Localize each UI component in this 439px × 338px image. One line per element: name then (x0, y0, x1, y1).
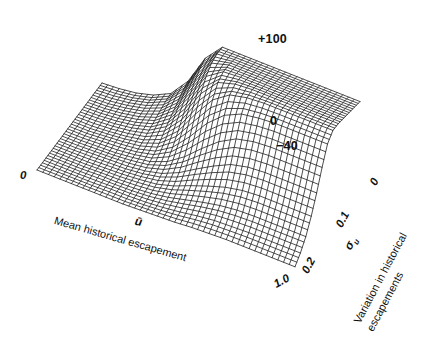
z-tick-top: +100 (258, 33, 287, 46)
surface-plot-figure: +100 0 −40 0 1.0 Mean historical escapem… (0, 0, 439, 338)
z-tick-bottom: −40 (276, 140, 298, 153)
x-tick-origin: 0 (20, 170, 26, 182)
z-tick-mid: 0 (270, 115, 277, 128)
